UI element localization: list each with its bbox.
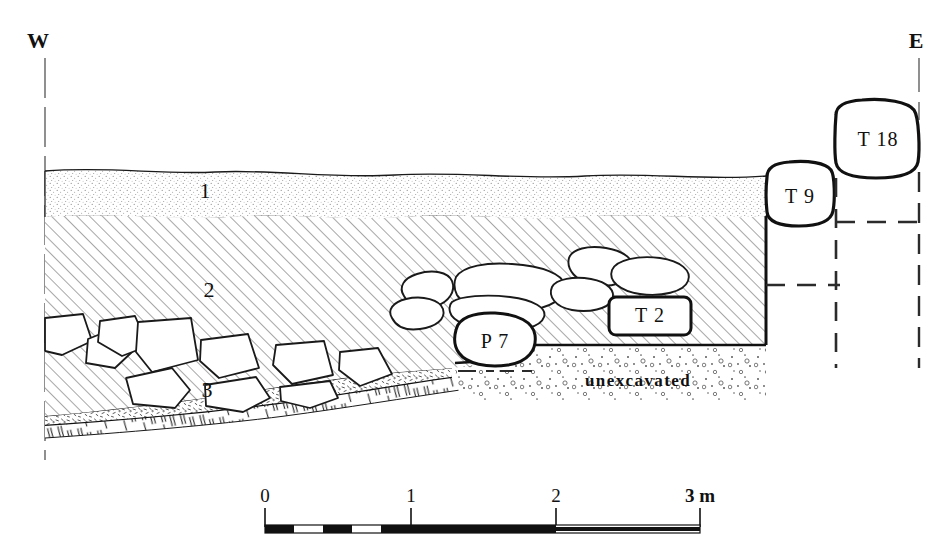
- section-drawing-canvas: W E: [0, 0, 944, 556]
- stone-t9[interactable]: T 9: [766, 161, 834, 226]
- stone-upper-right-b: [611, 257, 689, 295]
- scale-tick-label-2: 2: [551, 485, 561, 506]
- stone-mid-right: [551, 278, 613, 311]
- unexcavated-label: unexcavated: [585, 371, 691, 390]
- stone-p7[interactable]: P 7: [455, 313, 536, 366]
- east-label: E: [909, 28, 924, 53]
- scale-tick-label-0: 0: [260, 485, 270, 506]
- scale-bar-second-metre: [411, 525, 556, 533]
- layer-3-label: 3: [202, 377, 213, 402]
- scale-tick-label-1: 1: [406, 485, 416, 506]
- west-label: W: [27, 28, 49, 53]
- scale-bar-subdivisions: [265, 525, 411, 533]
- archaeological-section-figure: W E: [0, 0, 944, 556]
- scale-bar-third-metre: [556, 527, 700, 531]
- layer-2-label: 2: [204, 277, 215, 302]
- stone-t9-label: T 9: [785, 185, 815, 207]
- stone-small-left-lower: [390, 298, 443, 330]
- stone-t2[interactable]: T 2: [609, 297, 691, 335]
- stone-t18-label: T 18: [858, 128, 899, 150]
- stone-t18[interactable]: T 18: [835, 99, 919, 178]
- layer-1-label: 1: [200, 178, 211, 203]
- stone-p7-label: P 7: [481, 330, 509, 352]
- stone-t2-label: T 2: [635, 304, 665, 326]
- scale-unit-label: 3 m: [685, 485, 715, 506]
